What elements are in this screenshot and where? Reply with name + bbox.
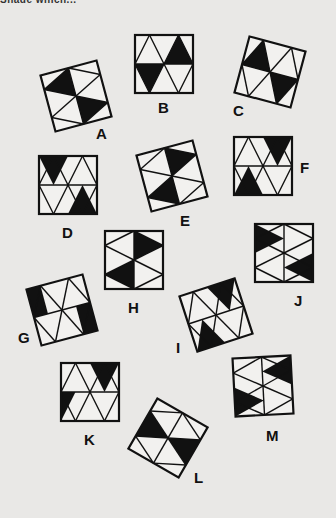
figure-m[interactable]	[233, 356, 294, 417]
figure-a[interactable]	[40, 60, 111, 131]
figure-label-l: L	[194, 470, 203, 485]
figure-label-j: J	[294, 293, 302, 308]
figure-e[interactable]	[136, 140, 207, 211]
figure-f[interactable]	[234, 137, 292, 195]
figure-label-m: M	[266, 428, 279, 443]
figure-label-h: H	[128, 300, 139, 315]
figure-c[interactable]	[234, 36, 305, 107]
figure-label-e: E	[180, 213, 190, 228]
figure-label-a: A	[96, 126, 107, 141]
figure-h[interactable]	[105, 231, 163, 289]
figure-label-c: C	[233, 103, 244, 118]
figure-label-f: F	[300, 160, 309, 175]
figure-j[interactable]	[255, 224, 313, 282]
figure-i[interactable]	[179, 278, 252, 351]
figure-label-b: B	[158, 100, 169, 115]
figure-label-i: I	[176, 340, 180, 355]
figure-l[interactable]	[128, 398, 207, 477]
figure-d[interactable]	[39, 156, 97, 214]
figure-k[interactable]	[61, 363, 119, 421]
figure-b[interactable]	[135, 35, 193, 93]
figure-label-d: D	[62, 225, 73, 240]
figures-canvas	[0, 0, 336, 518]
figure-label-k: K	[84, 432, 95, 447]
figure-label-g: G	[18, 330, 30, 345]
figure-g[interactable]	[26, 274, 97, 345]
